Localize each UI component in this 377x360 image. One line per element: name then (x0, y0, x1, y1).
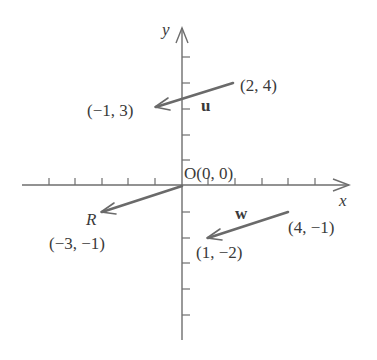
vector-w-head-label: (1, −2) (196, 243, 242, 262)
vector-u-line (156, 83, 233, 107)
x-axis-label: x (338, 191, 347, 210)
coordinate-plane-svg: x y O(0, 0) (0, 0, 377, 360)
vector-u-head-label: (−1, 3) (87, 101, 133, 120)
y-axis-label: y (160, 20, 170, 39)
vector-w-tail-label: (4, −1) (288, 218, 334, 237)
vector-r-line (102, 186, 182, 212)
vector-w-name-label: w (235, 204, 248, 223)
vector-u-name-label: u (201, 96, 210, 115)
vector-w: w (4, −1) (1, −2) (196, 204, 334, 262)
coordinate-plane-figure: x y O(0, 0) (0, 0, 377, 360)
vector-r-head-label: (−3, −1) (49, 234, 105, 253)
vector-u-tail-label: (2, 4) (240, 76, 277, 95)
vector-w-line (208, 212, 288, 238)
origin-label: O(0, 0) (184, 164, 233, 183)
vector-r-name-label: R (85, 210, 97, 229)
vector-r: R (−3, −1) (49, 186, 182, 253)
